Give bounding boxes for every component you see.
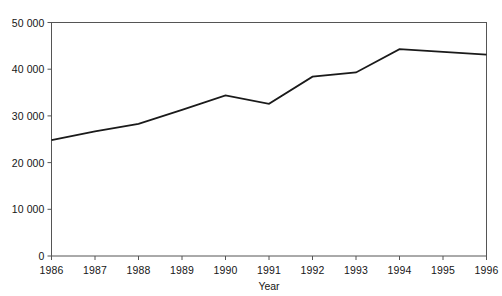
x-tick-label: 1987 <box>83 265 107 276</box>
x-tick-label: 1995 <box>431 265 455 276</box>
x-tick-label: 1990 <box>214 265 238 276</box>
plot-area-svg <box>0 0 502 296</box>
x-tick-label: 1989 <box>170 265 194 276</box>
y-tick-label: 40 000 <box>12 64 45 75</box>
x-tick-label: 1992 <box>301 265 325 276</box>
x-tick-label: 1993 <box>344 265 368 276</box>
y-tick-label: 0 <box>39 251 45 262</box>
line-chart: 010 00020 00030 00040 00050 000 19861987… <box>0 0 502 296</box>
y-tick-label: 10 000 <box>12 204 45 215</box>
x-tick-label: 1996 <box>475 265 499 276</box>
x-axis-tick-marks <box>52 256 487 260</box>
y-tick-label: 30 000 <box>12 111 45 122</box>
plot-frame <box>52 23 487 257</box>
y-tick-label: 20 000 <box>12 157 45 168</box>
x-tick-label: 1986 <box>40 265 64 276</box>
x-tick-label: 1988 <box>127 265 151 276</box>
x-axis-title: Year <box>258 281 279 292</box>
x-tick-label: 1991 <box>257 265 281 276</box>
y-tick-label: 50 000 <box>12 17 45 28</box>
data-series-line <box>52 49 487 140</box>
x-tick-label: 1994 <box>388 265 412 276</box>
y-axis-tick-marks <box>48 23 52 257</box>
